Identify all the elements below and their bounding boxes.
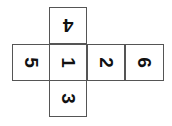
face-label-5: 5	[21, 57, 40, 68]
face-bottom: 3	[49, 80, 87, 117]
face-label-3: 3	[58, 93, 77, 104]
face-label-6: 6	[135, 57, 154, 68]
face-right: 2	[87, 44, 125, 81]
face-top: 4	[49, 7, 87, 44]
face-label-2: 2	[96, 57, 115, 68]
face-label-4: 4	[63, 16, 74, 35]
face-far-right: 6	[125, 44, 164, 81]
cube-net-diagram: 4 5 1 2 6 3	[0, 0, 172, 126]
face-center: 1	[49, 44, 87, 81]
face-left: 5	[12, 44, 50, 81]
face-label-1: 1	[58, 57, 77, 68]
